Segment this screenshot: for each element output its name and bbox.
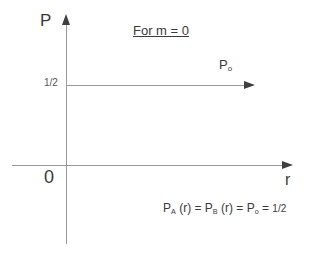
equation-po-subscript: o — [255, 207, 259, 216]
equation-pb-subscript: B — [213, 207, 218, 216]
y-axis-tick-label-one-half: 1/2 — [44, 78, 58, 88]
figure-title: For m = 0 — [133, 24, 189, 37]
origin-label: 0 — [44, 168, 54, 186]
equation-pa-argument: (r) — [176, 201, 191, 215]
p0-curve-label-base: P — [219, 57, 228, 72]
equation-po-base: P — [247, 201, 255, 215]
x-axis-line — [12, 165, 291, 166]
y-axis-label: P — [40, 12, 51, 29]
x-axis-arrowhead-icon — [282, 161, 293, 169]
equation-equals-third: = — [259, 201, 273, 215]
equation-pa-base: P — [163, 201, 171, 215]
equation-equals-second: = — [233, 201, 247, 215]
x-axis-label: r — [285, 172, 290, 188]
y-axis-line — [66, 22, 67, 244]
y-axis-arrowhead-icon — [62, 14, 70, 25]
physics-plot-figure: For m = 0 P r 0 1/2 Po PA (r) = PB (r) =… — [0, 0, 320, 262]
equation-value: 1/2 — [272, 203, 286, 214]
p0-level-arrowhead-icon — [244, 81, 255, 89]
equation-pa-subscript: A — [171, 207, 176, 216]
equation-pb-argument: (r) — [218, 201, 233, 215]
equation-equals-first: = — [191, 201, 205, 215]
p0-constant-level-line — [66, 85, 246, 86]
equation-annotation: PA (r) = PB (r) = Po = 1/2 — [163, 202, 286, 214]
p0-curve-label-subscript: o — [228, 64, 232, 73]
equation-pb-base: P — [205, 201, 213, 215]
p0-curve-label: Po — [219, 58, 232, 71]
